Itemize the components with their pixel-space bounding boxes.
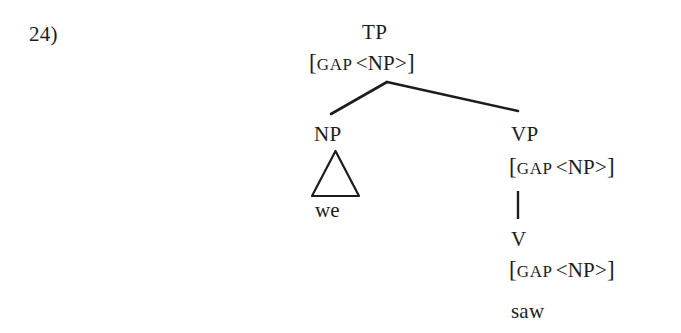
branch-tp-to-vp <box>387 82 518 111</box>
feature-close-bracket: ] <box>607 257 615 282</box>
branch-tp-to-np <box>331 82 387 114</box>
feature-gap-tp: [GAP<NP>] <box>309 51 415 77</box>
feature-value-np: <NP> <box>356 51 407 75</box>
np-triangle-icon <box>312 151 359 196</box>
feature-open-bracket: [ <box>509 154 517 179</box>
terminal-word-we: we <box>315 198 340 222</box>
feature-open-bracket: [ <box>309 50 317 75</box>
feature-value-np: <NP> <box>556 258 607 282</box>
feature-name-gap: GAP <box>517 262 553 281</box>
feature-name-gap: GAP <box>517 159 553 178</box>
feature-gap-v: [GAP<NP>] <box>509 258 615 284</box>
feature-close-bracket: ] <box>407 50 415 75</box>
feature-name-gap: GAP <box>317 55 353 74</box>
node-label-np: NP <box>314 122 341 146</box>
feature-value-np: <NP> <box>556 155 607 179</box>
terminal-word-saw: saw <box>511 299 544 323</box>
feature-close-bracket: ] <box>607 154 615 179</box>
feature-open-bracket: [ <box>509 257 517 282</box>
example-number: 24) <box>29 21 58 47</box>
node-label-v: V <box>511 227 526 251</box>
node-label-vp: VP <box>511 122 538 146</box>
node-label-tp: TP <box>362 20 387 44</box>
diagram-page: 24) TP [GAP<NP>] NP we VP [GAP<NP>] V [G… <box>0 0 681 333</box>
feature-gap-vp: [GAP<NP>] <box>509 155 615 181</box>
